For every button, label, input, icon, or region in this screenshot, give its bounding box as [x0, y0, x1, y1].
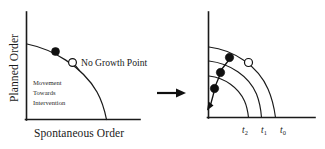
curve-t0 [209, 47, 276, 118]
right-panel: t2 t1 t0 [207, 12, 315, 136]
left-panel: No Growth Point Movement Towards Interve… [8, 12, 147, 140]
transition-arrow-head [176, 89, 186, 98]
annotation-line-3: Intervention [33, 99, 66, 106]
label-t1: t1 [261, 125, 267, 136]
label-t0: t0 [280, 125, 286, 136]
trajectory-segment-1 [222, 61, 229, 70]
annotation-line-2: Towards [33, 89, 56, 96]
left-x-axis-label: Spontaneous Order [34, 127, 124, 140]
marker-t2-filled [210, 84, 218, 92]
label-t2: t2 [242, 125, 248, 136]
annotation-line-1: Movement [33, 79, 62, 86]
left-y-axis-label: Planned Order [8, 34, 20, 102]
no-growth-point-label: No Growth Point [81, 57, 147, 68]
marker-t0-open [245, 59, 253, 67]
trajectory-segment-3 [211, 92, 215, 105]
economics-frontier-diagram: No Growth Point Movement Towards Interve… [0, 0, 325, 149]
transition-arrow [157, 89, 186, 98]
marker-t0-filled [225, 53, 233, 61]
marker-intervention-point [52, 48, 60, 56]
curve-t2 [209, 76, 249, 118]
marker-t1-filled [216, 68, 224, 76]
